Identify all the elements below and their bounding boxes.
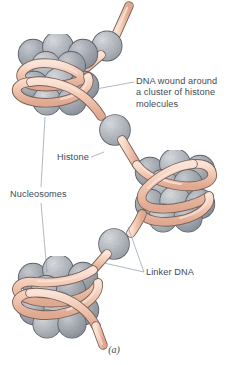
leader-line-nucleosomes-up (41, 117, 45, 187)
label-dna-wound-around-histones: DNA wound around a cluster of histone mo… (136, 76, 217, 110)
dna-strand-bottom-free (96, 326, 104, 345)
leader-line-histone (91, 152, 104, 157)
nucleosome-bottom (17, 254, 103, 345)
nucleosome-middle (131, 148, 215, 233)
nucleosome-diagram (0, 0, 228, 365)
leader-line-linker-dna-lower (104, 263, 144, 272)
leader-line-nucleosomes-down (41, 203, 47, 272)
dna-strand-top-free (115, 6, 129, 35)
leader-line-dna-wound (96, 82, 134, 89)
label-linker-dna: Linker DNA (146, 267, 194, 278)
label-nucleosomes: Nucleosomes (10, 189, 67, 200)
nucleosome-chain (17, 6, 216, 345)
nucleosome-top (17, 31, 101, 116)
dna-linker-middle-exit (131, 214, 142, 233)
label-histone: Histone (57, 152, 89, 163)
chromatin-nucleosome-figure: DNA wound around a cluster of histone mo… (0, 0, 228, 365)
figure-caption: (a) (0, 344, 228, 355)
